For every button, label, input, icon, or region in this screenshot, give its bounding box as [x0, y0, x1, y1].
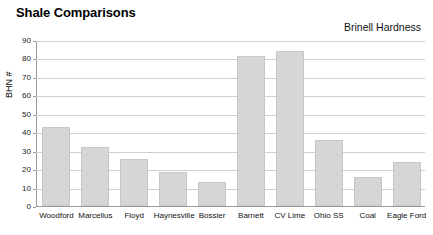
- y-axis-tick: [33, 59, 36, 60]
- bar-slot: [154, 41, 193, 206]
- y-axis-tick: [33, 41, 36, 42]
- bar-slot: [348, 41, 387, 206]
- bar-slot: [309, 41, 348, 206]
- y-axis-title: BHN #: [4, 71, 14, 98]
- y-axis-tick: [33, 189, 36, 190]
- chart-subtitle: Brinell Hardness: [344, 21, 421, 33]
- bar[interactable]: [120, 159, 148, 206]
- x-axis-category-label: Floyd: [115, 211, 154, 221]
- y-axis-tick-label: 90: [22, 37, 31, 45]
- bar-slot: [387, 41, 426, 206]
- y-axis-tick: [33, 207, 36, 208]
- y-axis-tick-label: 60: [22, 92, 31, 100]
- x-axis-category-label: Bossier: [193, 211, 232, 221]
- x-axis-category-label: Coal: [348, 211, 387, 221]
- y-axis-tick-label: 30: [22, 148, 31, 156]
- bars-layer: [37, 41, 425, 206]
- y-axis-tick-label: 0: [27, 203, 31, 211]
- bar[interactable]: [42, 127, 70, 206]
- bar[interactable]: [276, 51, 304, 206]
- y-axis-tick: [33, 78, 36, 79]
- bar[interactable]: [315, 140, 343, 206]
- x-axis-category-label: Eagle Ford: [387, 211, 426, 221]
- x-axis-line: [36, 206, 425, 207]
- bar[interactable]: [198, 182, 226, 206]
- bar[interactable]: [393, 162, 421, 206]
- bar-slot: [193, 41, 232, 206]
- bar[interactable]: [354, 177, 382, 207]
- x-axis-category-labels: WoodfordMarcellusFloydHaynesvilleBossier…: [37, 211, 426, 227]
- y-axis-tick-label: 10: [22, 185, 31, 193]
- plot-area: 9080706050403020100: [36, 41, 425, 207]
- y-axis-tick-label: 20: [22, 166, 31, 174]
- bar-slot: [232, 41, 271, 206]
- x-axis-category-label: Marcellus: [76, 211, 115, 221]
- y-axis-tick: [33, 170, 36, 171]
- bar[interactable]: [237, 56, 265, 206]
- bar-slot: [37, 41, 76, 206]
- bar-slot: [115, 41, 154, 206]
- x-axis-category-label: Ohio SS: [309, 211, 348, 221]
- bar-slot: [76, 41, 115, 206]
- bar[interactable]: [81, 147, 109, 206]
- bar-slot: [270, 41, 309, 206]
- y-axis-tick: [33, 115, 36, 116]
- y-axis-tick-label: 40: [22, 129, 31, 137]
- chart-title: Shale Comparisons: [16, 5, 136, 20]
- x-axis-category-label: Woodford: [37, 211, 76, 221]
- y-axis-tick-label: 70: [22, 74, 31, 82]
- y-axis-tick: [33, 133, 36, 134]
- y-axis-tick: [33, 152, 36, 153]
- x-axis-category-label: CV Lime: [270, 211, 309, 221]
- bar[interactable]: [159, 172, 187, 206]
- y-axis-tick: [33, 96, 36, 97]
- bar-chart: Shale Comparisons Brinell Hardness BHN #…: [0, 0, 433, 235]
- x-axis-category-label: Barnett: [232, 211, 271, 221]
- x-axis-category-label: Haynesville: [154, 211, 193, 221]
- y-axis-tick-label: 50: [22, 111, 31, 119]
- y-axis-tick-label: 80: [22, 55, 31, 63]
